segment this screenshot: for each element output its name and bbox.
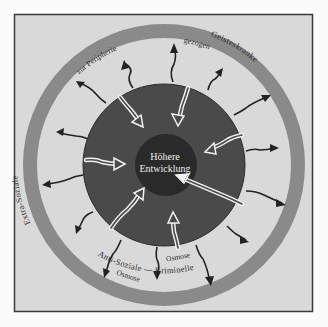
center-label-line2: Entwicklung <box>139 163 190 174</box>
diagram-stage: Höhere Entwicklung Geisteskranke Extra-S… <box>0 0 328 327</box>
center-label-line1: Höhere <box>150 151 180 162</box>
